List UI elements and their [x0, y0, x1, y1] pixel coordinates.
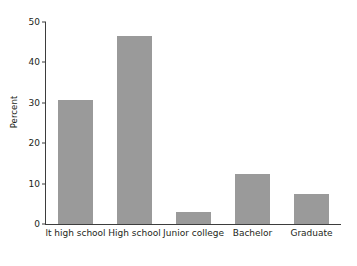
y-axis-title-text: Percent: [9, 96, 19, 129]
x-axis-tick-labels: lt high schoolHigh schoolJunior collegeB…: [46, 229, 341, 247]
y-axis-tick-label: 0: [34, 220, 40, 229]
y-axis-tick-label: 10: [29, 179, 40, 188]
x-axis-tick-label: Junior college: [163, 229, 224, 238]
y-axis-tick-label: 50: [29, 18, 40, 27]
bar[interactable]: [117, 36, 152, 224]
x-axis-tick-label: Bachelor: [233, 229, 273, 238]
x-axis-tick-label: lt high school: [45, 229, 105, 238]
y-axis-tick-label: 40: [29, 58, 40, 67]
y-axis-tick-mark: [42, 143, 46, 144]
bar[interactable]: [235, 174, 270, 224]
x-axis-tick-label: Graduate: [290, 229, 332, 238]
x-axis-tick-label: High school: [108, 229, 160, 238]
x-axis-spine: [45, 224, 341, 225]
plot-area: [46, 14, 341, 224]
bar-chart-figure: Percent 01020304050 lt high schoolHigh s…: [0, 0, 357, 266]
y-axis-tick-mark: [42, 22, 46, 23]
y-axis-tick-mark: [42, 102, 46, 103]
bar[interactable]: [176, 212, 211, 224]
bar[interactable]: [294, 194, 329, 224]
y-axis-tick-label: 20: [29, 139, 40, 148]
y-axis-tick-mark: [42, 62, 46, 63]
bar[interactable]: [58, 100, 93, 224]
y-axis-tick-mark: [42, 224, 46, 225]
y-axis-tick-mark: [42, 183, 46, 184]
y-axis-tick-label: 30: [29, 98, 40, 107]
y-axis-tick-labels: 01020304050: [20, 0, 40, 266]
